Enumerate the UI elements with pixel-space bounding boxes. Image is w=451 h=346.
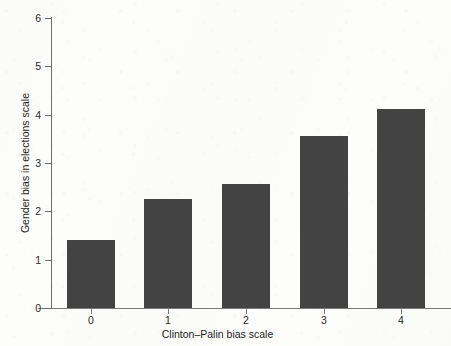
y-axis-title: Gender bias in elections scale <box>18 18 32 308</box>
bar <box>222 184 270 308</box>
bar <box>377 109 425 308</box>
x-axis-title: Clinton–Palin bias scale <box>0 329 451 340</box>
bar <box>67 240 115 308</box>
x-axis-tick-label: 2 <box>226 315 266 326</box>
y-axis-tick <box>45 308 52 309</box>
bar <box>300 136 348 308</box>
y-axis-tick <box>45 211 52 212</box>
y-axis-tick <box>45 66 52 67</box>
y-axis-tick <box>45 115 52 116</box>
y-axis-tick <box>45 18 52 19</box>
y-axis-tick <box>45 163 52 164</box>
plot-area <box>52 18 440 308</box>
y-axis-tick <box>45 260 52 261</box>
x-axis-title-text: Clinton–Palin bias scale <box>162 328 273 340</box>
x-axis-tick-label: 3 <box>304 315 344 326</box>
x-axis-line <box>38 308 451 309</box>
bar <box>144 199 192 308</box>
x-axis-tick-label: 0 <box>71 315 111 326</box>
x-axis-tick-label: 4 <box>381 315 421 326</box>
x-axis-tick-label: 1 <box>148 315 188 326</box>
bar-chart-figure: 0123456 01234 Clinton–Palin bias scale G… <box>0 0 451 346</box>
